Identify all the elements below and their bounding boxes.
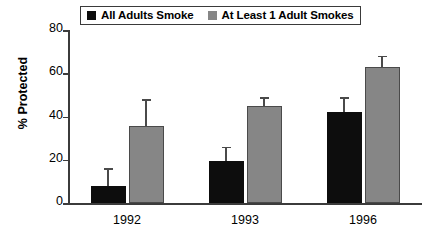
y-tick-label: 80	[49, 22, 63, 35]
y-tick-mark	[63, 30, 68, 32]
bar-1993-series1	[209, 161, 244, 203]
error-bar-cap	[340, 97, 349, 99]
bar-1996-series1	[327, 112, 362, 203]
bar-1992-series2	[129, 126, 164, 203]
y-tick-mark	[63, 160, 68, 162]
error-bar-cap	[142, 99, 151, 101]
chart-legend: All Adults Smoke At Least 1 Adult Smokes	[80, 6, 361, 25]
error-bar-cap	[222, 147, 231, 149]
bar-chart: All Adults Smoke At Least 1 Adult Smokes…	[0, 0, 430, 243]
x-category-label: 1996	[349, 213, 377, 227]
y-tick-label: 60	[49, 65, 63, 78]
y-tick-mark	[63, 117, 68, 119]
plot-area: 020406080 199219931996	[68, 30, 422, 203]
error-bar-line	[107, 168, 109, 185]
error-bar-cap	[104, 168, 113, 170]
y-axis-title: % Protected	[16, 48, 30, 138]
error-bar-cap	[378, 56, 387, 58]
error-bar-line	[225, 147, 227, 161]
legend-label: All Adults Smoke	[101, 10, 194, 22]
error-bar-line	[343, 97, 345, 112]
y-tick-label: 40	[49, 109, 63, 122]
legend-item-at-least-1-adult-smokes: At Least 1 Adult Smokes	[208, 10, 354, 22]
legend-item-all-adults-smoke: All Adults Smoke	[87, 10, 194, 22]
x-axis-line	[68, 203, 422, 205]
bar-1996-series2	[365, 67, 400, 203]
error-bar-cap	[260, 97, 269, 99]
gray-swatch-icon	[208, 11, 217, 20]
x-category-label: 1993	[231, 213, 259, 227]
y-tick-mark	[63, 203, 68, 205]
y-tick-label: 0	[56, 195, 63, 208]
bar-1992-series1	[91, 186, 126, 203]
y-tick-mark	[63, 73, 68, 75]
bar-1993-series2	[247, 106, 282, 203]
error-bar-line	[381, 56, 383, 67]
legend-label: At Least 1 Adult Smokes	[222, 10, 354, 22]
black-swatch-icon	[87, 11, 96, 20]
x-category-label: 1992	[113, 213, 141, 227]
error-bar-line	[145, 99, 147, 126]
y-tick-label: 20	[49, 152, 63, 165]
y-axis-line	[68, 30, 70, 203]
